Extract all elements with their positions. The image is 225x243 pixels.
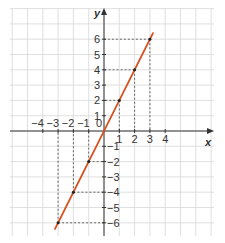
data-point [72, 191, 75, 194]
y-tick-label: −5 [107, 202, 120, 214]
data-point [87, 160, 90, 163]
y-tick-label: −1 [107, 140, 120, 152]
x-tick-label: −3 [47, 117, 60, 129]
y-tick-label: 5 [94, 49, 100, 61]
y-axis-label: y [93, 7, 101, 19]
x-axis-arrow-icon [207, 128, 214, 134]
x-tick-label: −1 [77, 117, 90, 129]
data-point [118, 99, 121, 102]
x-tick-label: 4 [162, 133, 168, 145]
y-tick-label: 4 [94, 64, 100, 76]
data-point [133, 68, 136, 71]
y-tick-label: 2 [94, 94, 100, 106]
y-tick-label: 6 [94, 33, 100, 45]
x-tick-label: 2 [132, 133, 138, 145]
y-axis-arrow-icon [101, 8, 107, 15]
x-tick-label: 3 [147, 133, 153, 145]
data-point [148, 38, 151, 41]
coordinate-plane-chart: −4−3−2−11234−6−5−4−3−2−11234560xy [0, 0, 225, 243]
x-tick-label: −2 [62, 117, 75, 129]
x-axis-label: x [204, 136, 212, 148]
y-tick-label: −3 [107, 171, 120, 183]
data-point [57, 221, 60, 224]
origin-label: 0 [96, 117, 102, 129]
y-tick-label: 3 [94, 79, 100, 91]
y-tick-label: −6 [107, 217, 120, 229]
x-tick-label: −4 [31, 117, 44, 129]
y-tick-label: −4 [107, 186, 120, 198]
y-tick-label: −2 [107, 156, 120, 168]
